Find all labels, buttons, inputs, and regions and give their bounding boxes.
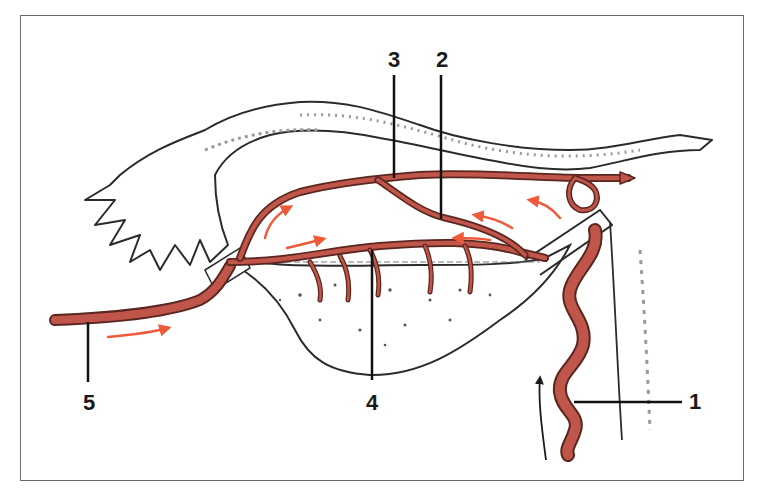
label-4: 4 xyxy=(366,392,378,414)
flow-arrow-icon xyxy=(108,328,168,337)
label-3: 3 xyxy=(388,49,400,71)
label-5: 5 xyxy=(83,392,95,414)
flow-arrow-icon xyxy=(287,239,323,248)
label-2: 2 xyxy=(436,49,448,71)
label-1: 1 xyxy=(689,391,701,413)
ovary-tissue xyxy=(235,245,570,375)
upward-flow-arrow-icon xyxy=(539,378,546,460)
flow-arrow-icon xyxy=(530,200,560,218)
anatomy-diagram xyxy=(0,0,757,498)
